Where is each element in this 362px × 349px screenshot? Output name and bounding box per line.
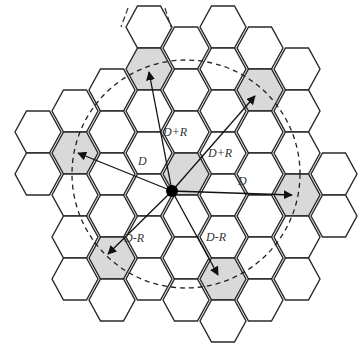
cell <box>200 90 246 132</box>
label-d-right: D <box>238 175 247 187</box>
cell <box>15 111 61 153</box>
cochannel-cell <box>126 48 172 90</box>
hexagonal-cell-diagram <box>0 0 362 349</box>
cell <box>126 258 172 300</box>
cell <box>274 258 320 300</box>
label-d-plus-r-top: D+R <box>163 126 187 138</box>
cell <box>311 195 357 237</box>
cell <box>274 48 320 90</box>
cell <box>200 6 246 48</box>
cell <box>274 132 320 174</box>
cell <box>237 27 283 69</box>
cell <box>200 300 246 342</box>
mobile-unit-dot <box>166 185 178 197</box>
cell <box>163 27 209 69</box>
cell <box>89 153 135 195</box>
cell <box>15 153 61 195</box>
cell <box>126 174 172 216</box>
cell <box>163 69 209 111</box>
cell <box>237 111 283 153</box>
label-d-left: D <box>138 155 147 167</box>
cochannel-cell <box>200 258 246 300</box>
cell <box>237 279 283 321</box>
cell <box>163 237 209 279</box>
cochannel-cell <box>52 132 98 174</box>
cell <box>200 48 246 90</box>
label-d-minus-r-lower-left: D-R <box>124 232 144 244</box>
cell <box>52 258 98 300</box>
label-d-plus-r-upper-right: D+R <box>208 147 232 159</box>
cell <box>237 195 283 237</box>
cell <box>89 111 135 153</box>
cell <box>89 279 135 321</box>
cell <box>311 153 357 195</box>
cell <box>163 279 209 321</box>
cell <box>126 6 172 48</box>
cell <box>52 174 98 216</box>
label-d-minus-r-lower-right: D-R <box>206 231 226 243</box>
